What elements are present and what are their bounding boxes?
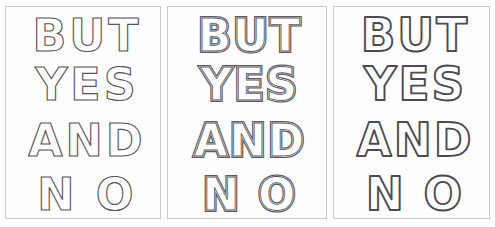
panel-1-lettering: BUT YES AND N O bbox=[6, 7, 160, 218]
lettering-panel-2[interactable]: BUT YES AND N O BUT YES AND N O BUT YES … bbox=[167, 6, 327, 219]
panel-1-line-2: YES bbox=[34, 59, 138, 110]
panel-3-line-2: YES bbox=[363, 58, 467, 111]
panel-3-line-1: BUT bbox=[361, 9, 469, 62]
panel-3-line-4: N O bbox=[366, 168, 464, 218]
panel-2-line-3-core: AND bbox=[194, 116, 306, 166]
panel-1-line-3: AND bbox=[28, 115, 145, 166]
panel-2-line-4-core: N O bbox=[203, 170, 297, 218]
panel-2-content: BUT YES AND N O BUT YES AND N O BUT YES … bbox=[168, 7, 326, 218]
artwork-sheet: BUT YES AND N O BUT YES AND N O BUT YES … bbox=[0, 0, 495, 227]
panel-1-line-4: N O bbox=[37, 169, 136, 218]
panel-2-line-2-core: YES bbox=[200, 60, 299, 110]
lettering-panel-1[interactable]: BUT YES AND N O bbox=[5, 6, 161, 219]
panel-3-content: BUT YES AND N O bbox=[334, 7, 489, 218]
lettering-panel-3[interactable]: BUT YES AND N O bbox=[333, 6, 490, 219]
panel-3-line-3: AND bbox=[357, 114, 474, 167]
panel-2-lettering: BUT YES AND N O BUT YES AND N O BUT YES … bbox=[168, 7, 326, 218]
panel-2-line-1-core: BUT bbox=[198, 11, 302, 61]
panel-1-content: BUT YES AND N O bbox=[6, 7, 160, 218]
panel-1-line-1: BUT bbox=[32, 10, 141, 61]
panel-3-lettering: BUT YES AND N O bbox=[334, 7, 489, 218]
